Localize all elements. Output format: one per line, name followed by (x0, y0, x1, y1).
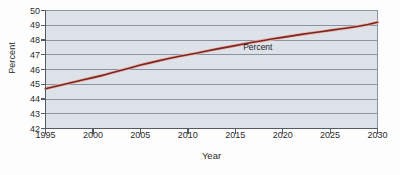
x-tick-label-2010: 2010 (168, 131, 208, 140)
x-axis-title: Year (45, 150, 378, 161)
x-tick-label-2000: 2000 (73, 131, 113, 140)
x-tick-label-2025: 2025 (310, 131, 350, 140)
x-tick-label-2030: 2030 (358, 131, 398, 140)
x-axis-tick-label-group: 19952000200520102015202020252030 (0, 0, 400, 175)
x-tick-label-1995: 1995 (26, 131, 66, 140)
x-tick-label-2015: 2015 (215, 131, 255, 140)
x-tick-label-2020: 2020 (263, 131, 303, 140)
line-chart-figure: 424344454647484950 199520002005201020152… (0, 0, 400, 175)
series-annotation-percent: Percent (243, 42, 272, 52)
y-axis-title: Percent (7, 23, 17, 93)
x-tick-label-2005: 2005 (120, 131, 160, 140)
